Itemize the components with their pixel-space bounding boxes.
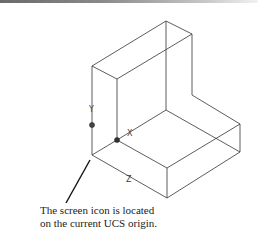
z-axis-label: Z xyxy=(126,175,132,184)
leader-line xyxy=(66,160,90,203)
y-axis-marker-icon xyxy=(90,123,95,128)
y-axis-label: Y xyxy=(88,105,94,114)
upright-block xyxy=(92,21,192,155)
origin-marker-icon xyxy=(115,138,120,143)
x-axis-label: X xyxy=(127,129,133,138)
ucs-icon xyxy=(90,123,120,143)
caption-line-1: The screen icon is located xyxy=(40,204,157,217)
base-block xyxy=(92,95,240,198)
caption-line-2: on the current UCS origin. xyxy=(40,217,157,230)
l-bracket-wireframe: Y X Z xyxy=(0,0,258,238)
caption: The screen icon is located on the curren… xyxy=(40,204,157,230)
